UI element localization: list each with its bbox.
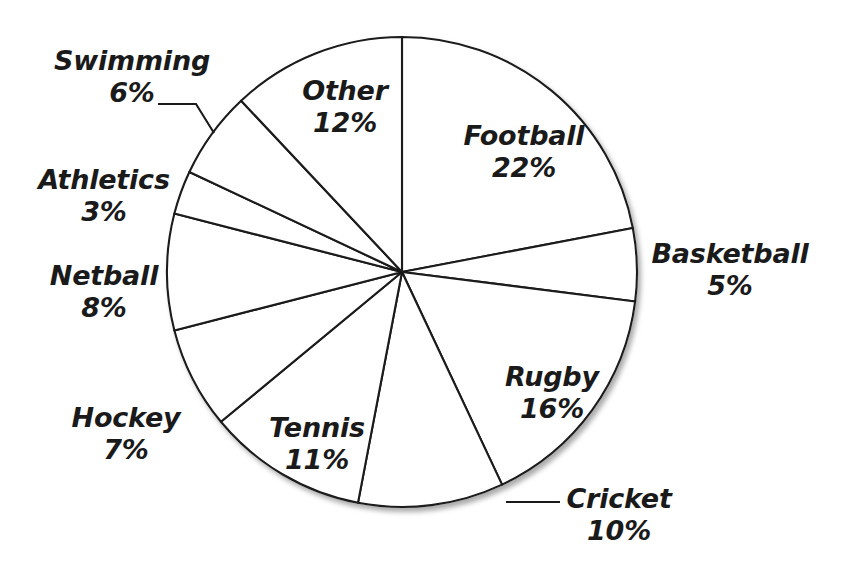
slice-name-swimming: Swimming bbox=[54, 45, 210, 77]
pie-slices-group bbox=[167, 37, 637, 507]
slice-value-rugby: 16% bbox=[505, 393, 599, 425]
slice-label-athletics: Athletics 3% bbox=[38, 164, 170, 228]
slice-label-netball: Netball 8% bbox=[50, 260, 158, 324]
slice-name-other: Other bbox=[302, 75, 388, 107]
slice-label-swimming: Swimming 6% bbox=[54, 45, 210, 109]
slice-label-hockey: Hockey 7% bbox=[72, 402, 181, 466]
slice-value-cricket: 10% bbox=[566, 515, 671, 547]
slice-label-tennis: Tennis 11% bbox=[269, 412, 365, 476]
slice-label-football: Football 22% bbox=[464, 120, 585, 184]
slice-value-netball: 8% bbox=[50, 292, 158, 324]
slice-name-tennis: Tennis bbox=[269, 412, 365, 444]
slice-name-athletics: Athletics bbox=[38, 164, 170, 196]
slice-name-rugby: Rugby bbox=[505, 361, 599, 393]
slice-value-athletics: 3% bbox=[38, 196, 170, 228]
slice-value-basketball: 5% bbox=[651, 270, 808, 302]
slice-name-netball: Netball bbox=[50, 260, 158, 292]
slice-value-swimming: 6% bbox=[54, 77, 210, 109]
slice-label-other: Other 12% bbox=[302, 75, 388, 139]
slice-name-cricket: Cricket bbox=[566, 483, 671, 515]
slice-name-hockey: Hockey bbox=[72, 402, 181, 434]
slice-label-cricket: Cricket 10% bbox=[566, 483, 671, 547]
slice-name-football: Football bbox=[464, 120, 585, 152]
slice-value-tennis: 11% bbox=[269, 444, 365, 476]
slice-label-basketball: Basketball 5% bbox=[651, 238, 808, 302]
slice-label-rugby: Rugby 16% bbox=[505, 361, 599, 425]
slice-name-basketball: Basketball bbox=[651, 238, 808, 270]
slice-value-football: 22% bbox=[464, 152, 585, 184]
slice-value-hockey: 7% bbox=[72, 434, 181, 466]
pie-chart-page: Swimming 6% Athletics 3% Netball 8% Hock… bbox=[0, 0, 841, 577]
slice-value-other: 12% bbox=[302, 107, 388, 139]
